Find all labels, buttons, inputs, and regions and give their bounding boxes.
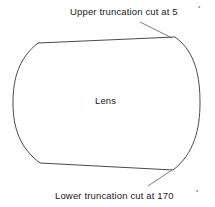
lower-degree-symbol: °: [196, 189, 199, 195]
lens-center-label: Lens: [95, 95, 116, 106]
upper-truncation-label: Upper truncation cut at 5: [70, 6, 178, 17]
upper-leader-line: [140, 22, 172, 38]
lower-leader-line: [148, 170, 172, 186]
lower-truncation-label: Lower truncation cut at 170: [55, 190, 174, 201]
upper-degree-symbol: °: [198, 5, 201, 11]
lens-truncation-diagram: Upper truncation cut at 5 ° Lens Lower t…: [0, 0, 215, 207]
diagram-canvas: Upper truncation cut at 5 ° Lens Lower t…: [0, 0, 215, 207]
